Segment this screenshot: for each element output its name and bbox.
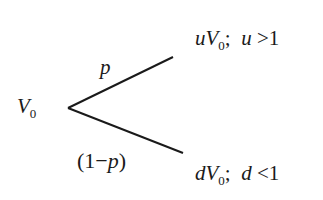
down-probability-label: (1−p) — [77, 150, 126, 172]
down-prob-var: p — [108, 148, 119, 173]
up-cond-op: > — [257, 26, 269, 50]
down-cond-val: 1 — [269, 161, 280, 185]
up-probability-label: p — [100, 57, 111, 78]
down-outcome-label: dV0; d <1 — [195, 163, 279, 187]
root-sub: 0 — [30, 106, 37, 121]
up-cond-var: u — [241, 26, 252, 50]
up-coef: u — [195, 26, 206, 50]
root-var: V — [17, 94, 30, 118]
down-sep: ; — [225, 161, 231, 185]
down-var: V — [206, 161, 219, 185]
down-prob-op: − — [95, 148, 107, 173]
down-coef: d — [195, 161, 206, 185]
down-prob-close: ) — [119, 148, 126, 173]
root-node-label: V0 — [17, 96, 36, 120]
up-var: V — [206, 26, 219, 50]
up-cond-val: 1 — [269, 26, 280, 50]
up-prob: p — [100, 55, 111, 79]
down-cond-op: < — [257, 161, 269, 185]
up-outcome-label: uV0; u >1 — [195, 28, 279, 52]
up-sep: ; — [225, 26, 231, 50]
down-cond-var: d — [241, 161, 252, 185]
down-prob-num: 1 — [84, 148, 95, 173]
down-branch-line — [68, 108, 183, 153]
up-branch-line — [68, 57, 173, 108]
